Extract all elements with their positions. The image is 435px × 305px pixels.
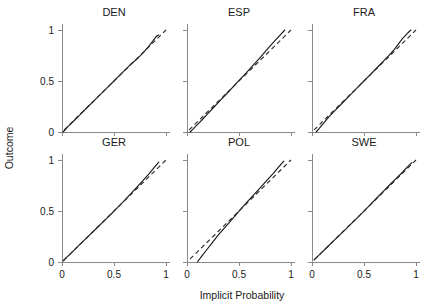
y-tick-label: 0.5 (40, 76, 54, 87)
panel-title: FRA (353, 6, 376, 18)
x-tick-label: 0 (184, 269, 190, 280)
x-tick-label: 0.5 (232, 269, 246, 280)
reference-line (189, 30, 291, 130)
outcome-curve (63, 162, 159, 261)
panel-title: DEN (102, 6, 125, 18)
x-tick-label: 0.5 (357, 269, 371, 280)
x-tick-label: 1 (163, 269, 169, 280)
y-tick-label: 1 (48, 155, 54, 166)
panel-den: DEN00.51 (40, 6, 170, 138)
panel-fra: FRA (308, 6, 420, 136)
x-axis-title: Implicit Probability (200, 289, 285, 301)
panel-title: POL (228, 136, 250, 148)
panel-ger: GER00.5100.51 (40, 136, 170, 280)
y-tick-label: 0 (48, 257, 54, 268)
reference-line (314, 30, 416, 130)
outcome-curve (314, 163, 412, 260)
panel-esp: ESP (183, 6, 295, 136)
y-tick-label: 0.5 (40, 206, 54, 217)
panel-pol: POL00.51 (183, 136, 295, 280)
reference-line (190, 160, 291, 259)
panel-title: GER (102, 136, 126, 148)
panel-title: ESP (228, 6, 250, 18)
panel-swe: SWE00.51 (308, 136, 420, 280)
panel-grid: DEN00.51ESPFRAGER00.5100.51POL00.51SWE00… (40, 6, 420, 280)
calibration-figure: Outcome Implicit Probability DEN00.51ESP… (0, 0, 435, 305)
x-tick-label: 0.5 (107, 269, 121, 280)
y-axis-title: Outcome (3, 127, 15, 170)
panel-title: SWE (351, 136, 376, 148)
chart-svg: Outcome Implicit Probability DEN00.51ESP… (0, 0, 435, 305)
x-tick-label: 0 (59, 269, 65, 280)
y-tick-label: 1 (48, 25, 54, 36)
y-tick-label: 0 (48, 127, 54, 138)
x-tick-label: 1 (413, 269, 419, 280)
x-tick-label: 0 (309, 269, 315, 280)
outcome-curve (197, 161, 283, 262)
outcome-curve (190, 30, 285, 132)
x-tick-label: 1 (288, 269, 294, 280)
